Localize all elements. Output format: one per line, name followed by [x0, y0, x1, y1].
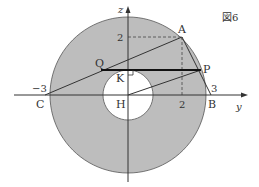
y-axis-label: y	[235, 101, 242, 112]
figure-title: 図6	[222, 12, 238, 23]
tick-y-3: 3	[211, 83, 217, 94]
z-axis-label: z	[117, 4, 124, 15]
y-axis-arrow-icon	[241, 93, 248, 98]
z-axis-arrow-icon	[126, 6, 131, 13]
point-label-H: H	[116, 98, 126, 111]
tick-z-2: 2	[117, 32, 123, 43]
point-label-A: A	[177, 23, 187, 36]
diagram-figure: 図6 z y 2 2 3 −3 A P Q K H C B	[0, 0, 259, 187]
point-label-Q: Q	[95, 57, 104, 70]
point-label-B: B	[208, 98, 216, 111]
point-label-C: C	[36, 98, 44, 111]
tick-y-neg3: −3	[32, 83, 47, 94]
tick-y-2: 2	[179, 99, 185, 110]
diagram-canvas: 図6 z y 2 2 3 −3 A P Q K H C B	[0, 0, 259, 187]
point-label-K: K	[116, 72, 125, 85]
point-label-P: P	[203, 63, 211, 76]
